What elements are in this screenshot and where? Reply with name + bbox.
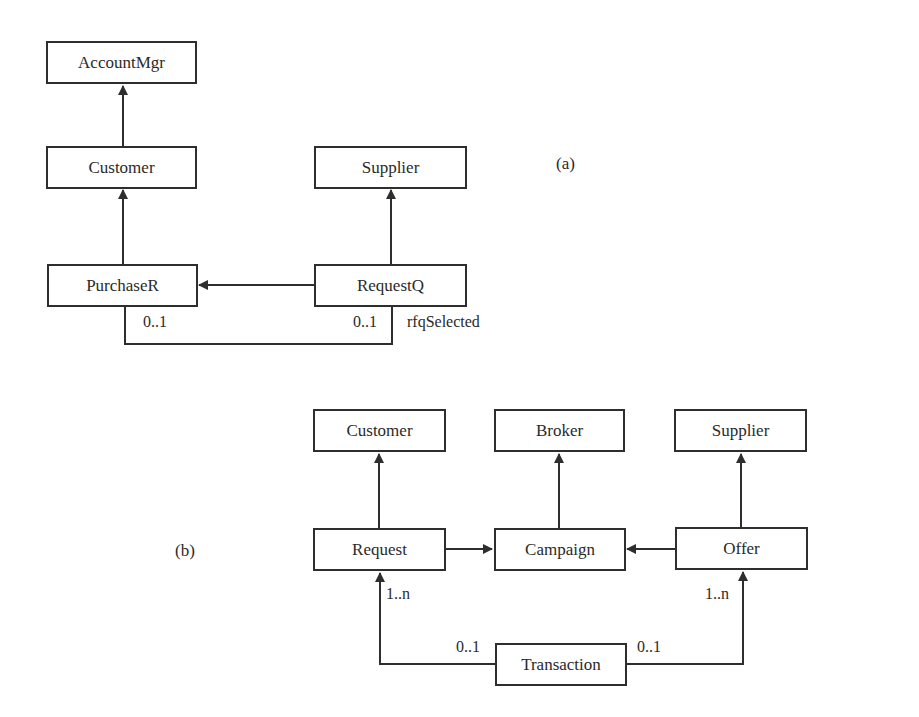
- multiplicity-transaction-left: 0..1: [456, 638, 480, 656]
- class-transaction: Transaction: [495, 643, 627, 686]
- class-broker: Broker: [494, 409, 625, 452]
- class-campaign-label: Campaign: [525, 540, 595, 560]
- class-supplier-b: Supplier: [674, 409, 807, 452]
- class-transaction-label: Transaction: [521, 655, 601, 675]
- class-requestq-label: RequestQ: [357, 276, 424, 296]
- multiplicity-offer: 1..n: [705, 585, 729, 603]
- class-purchaser-label: PurchaseR: [86, 276, 159, 296]
- role-rfqselected: rfqSelected: [407, 313, 480, 331]
- class-supplier-b-label: Supplier: [712, 421, 770, 441]
- class-offer: Offer: [675, 527, 808, 570]
- class-campaign: Campaign: [494, 528, 626, 571]
- multiplicity-purchaser: 0..1: [143, 313, 167, 331]
- class-customer-a: Customer: [46, 146, 197, 189]
- diagram-label-b: (b): [175, 541, 195, 561]
- diagram-label-a: (a): [556, 154, 575, 174]
- class-broker-label: Broker: [536, 421, 583, 441]
- connector-lines: [0, 0, 919, 717]
- class-requestq: RequestQ: [314, 264, 467, 307]
- class-supplier-a: Supplier: [314, 146, 467, 189]
- multiplicity-transaction-right: 0..1: [637, 638, 661, 656]
- class-supplier-a-label: Supplier: [362, 158, 420, 178]
- class-customer-b-label: Customer: [346, 421, 412, 441]
- class-request: Request: [313, 528, 446, 571]
- class-customer-b: Customer: [313, 409, 446, 452]
- class-accountmgr-label: AccountMgr: [78, 53, 165, 73]
- class-purchaser: PurchaseR: [47, 264, 198, 307]
- multiplicity-requestq: 0..1: [353, 313, 377, 331]
- class-offer-label: Offer: [723, 539, 760, 559]
- class-accountmgr: AccountMgr: [46, 41, 197, 84]
- class-request-label: Request: [352, 540, 407, 560]
- class-customer-a-label: Customer: [88, 158, 154, 178]
- multiplicity-request: 1..n: [386, 585, 410, 603]
